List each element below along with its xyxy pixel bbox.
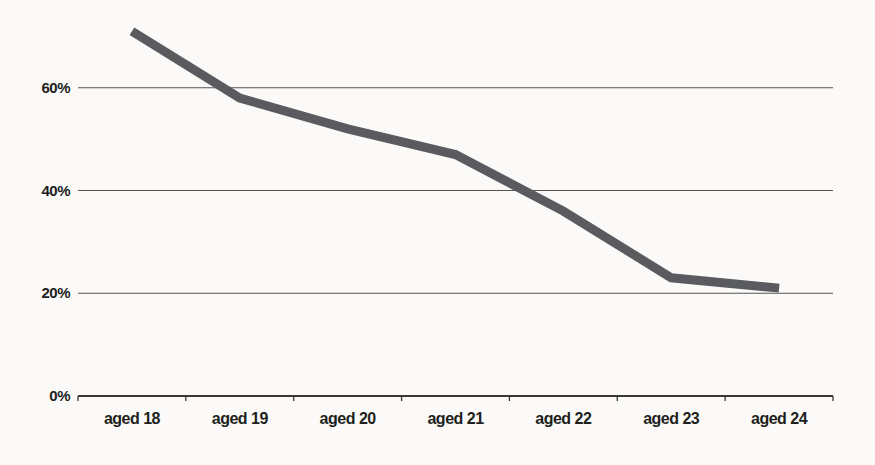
x-category-label: aged 24: [751, 410, 808, 427]
y-tick-label: 20%: [41, 284, 70, 301]
chart-canvas: 0%20%40%60% aged 18aged 19aged 20aged 21…: [0, 0, 875, 465]
y-tick-label: 0%: [49, 387, 70, 404]
x-category-label: aged 22: [535, 410, 592, 427]
y-tick-label: 60%: [41, 79, 70, 96]
x-category-label: aged 21: [427, 410, 484, 427]
gridlines: [78, 88, 833, 396]
x-category-label: aged 23: [643, 410, 700, 427]
x-category-label: aged 18: [104, 410, 161, 427]
x-category-label: aged 19: [212, 410, 269, 427]
x-category-label: aged 20: [320, 410, 377, 427]
data-line: [132, 31, 779, 288]
y-tick-label: 40%: [41, 182, 70, 199]
age-percentage-line-chart: 0%20%40%60% aged 18aged 19aged 20aged 21…: [0, 0, 875, 465]
x-axis-labels: aged 18aged 19aged 20aged 21aged 22aged …: [104, 410, 808, 427]
y-axis-labels: 0%20%40%60%: [41, 79, 70, 404]
